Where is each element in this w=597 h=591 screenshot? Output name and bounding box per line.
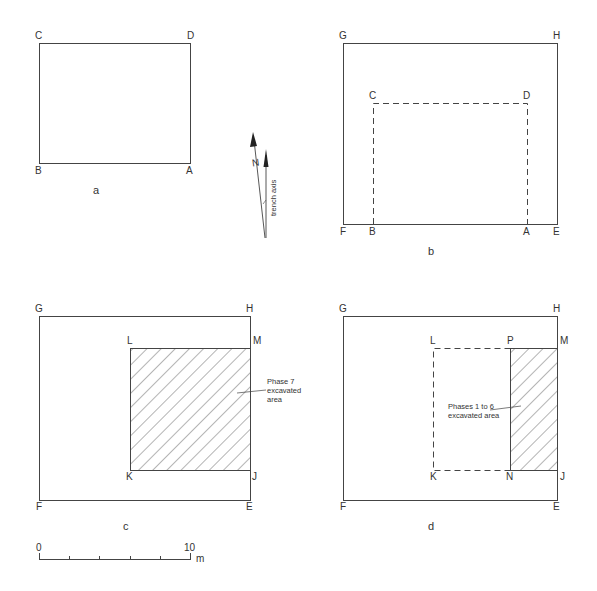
phases-note-line-2: excavated area xyxy=(448,411,500,420)
label-e: E xyxy=(553,501,560,512)
label-f: F xyxy=(340,501,346,512)
label-f: F xyxy=(36,501,42,512)
panel-d: G H L P M K N J F E Phases 1 to 6 excava… xyxy=(339,303,568,532)
panel-b: G H C D F B A E b xyxy=(339,30,560,257)
label-d: D xyxy=(187,30,194,41)
phase-7-note-line-1: Phase 7 xyxy=(267,377,295,386)
label-h: H xyxy=(553,303,560,314)
excavation-plan-diagram: C D B A a N trench axis G H C D F B A E … xyxy=(0,0,597,591)
north-arrow: N trench axis xyxy=(250,132,278,238)
label-g: G xyxy=(35,303,43,314)
label-h: H xyxy=(553,30,560,41)
phases-1-6-hatched-area xyxy=(511,349,558,471)
scale-bar: 0 10 m xyxy=(36,542,204,564)
caption-b: b xyxy=(428,245,434,257)
label-j: J xyxy=(560,471,565,482)
label-h: H xyxy=(246,303,253,314)
phases-note-line-1: Phases 1 to 6 xyxy=(448,402,494,411)
label-l: L xyxy=(430,335,436,346)
caption-a: a xyxy=(93,184,100,196)
label-k: K xyxy=(126,471,133,482)
caption-c: c xyxy=(123,520,129,532)
dashed-trench-outline-abcd xyxy=(374,104,528,225)
outer-rectangle-efgh xyxy=(344,44,558,225)
label-d: D xyxy=(523,90,530,101)
label-a: A xyxy=(186,165,193,176)
label-e: E xyxy=(553,226,560,237)
label-b: B xyxy=(35,165,42,176)
label-a: A xyxy=(523,226,530,237)
label-l: L xyxy=(127,335,133,346)
scale-start-label: 0 xyxy=(36,542,42,553)
scale-end-label: 10 xyxy=(184,542,196,553)
label-p: P xyxy=(507,335,514,346)
label-f: F xyxy=(340,226,346,237)
label-k: K xyxy=(430,471,437,482)
label-c: C xyxy=(35,30,42,41)
scale-unit-label: m xyxy=(196,553,204,564)
phase-7-hatched-area xyxy=(131,349,251,471)
label-c: C xyxy=(369,90,376,101)
trench-axis-arrowhead-icon xyxy=(264,149,269,167)
label-e: E xyxy=(246,501,253,512)
panel-a: C D B A a xyxy=(35,30,194,196)
label-g: G xyxy=(339,30,347,41)
caption-d: d xyxy=(428,520,434,532)
trench-rectangle-abcd xyxy=(40,44,191,164)
label-n: N xyxy=(506,471,513,482)
label-m: M xyxy=(560,335,568,346)
label-g: G xyxy=(339,303,347,314)
north-label: N xyxy=(251,156,260,168)
trench-axis-label: trench axis xyxy=(269,179,278,216)
label-j: J xyxy=(252,471,257,482)
label-m: M xyxy=(253,335,261,346)
label-b: B xyxy=(369,226,376,237)
phase-7-note-line-2: excavated xyxy=(267,386,301,395)
phase-7-note-line-3: area xyxy=(267,395,283,404)
north-arrowhead-icon xyxy=(250,132,257,147)
panel-c: G H L M K J F E Phase 7 excavated area c xyxy=(35,303,301,532)
